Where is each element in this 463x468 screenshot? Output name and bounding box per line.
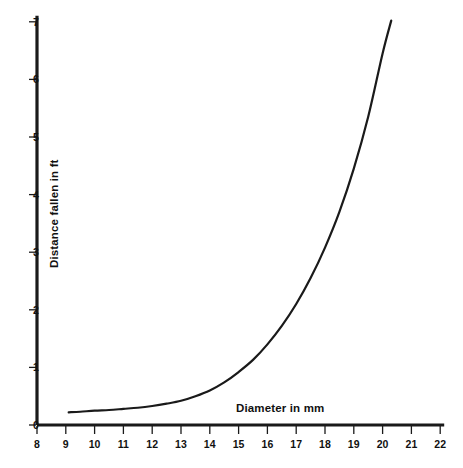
x-tick-label: 19 [348,439,360,450]
x-axis-ticks [37,426,440,434]
x-tick-label: 21 [405,439,417,450]
x-tick-label: 15 [233,439,245,450]
axis-lines [37,16,444,425]
x-tick-label: 8 [34,439,40,450]
x-tick-label: 14 [204,439,216,450]
x-tick-label: 12 [146,439,158,450]
y-tick-label: 3 [25,247,39,258]
x-tick-label: 17 [290,439,302,450]
data-series-line [69,21,392,413]
y-tick-label: 7 [25,17,39,28]
x-tick-label: 11 [118,439,129,450]
y-axis-title: Distance fallen in ft [49,159,61,268]
chart-figure: 8910111213141516171819202122 01234567 Di… [0,0,463,468]
x-tick-label: 16 [261,439,273,450]
x-tick-label: 18 [319,439,331,450]
y-tick-label: 2 [25,305,39,316]
y-tick-label: 5 [25,132,39,143]
x-tick-label: 22 [434,439,446,450]
x-tick-label: 9 [63,439,69,450]
x-axis-title: Diameter in mm [236,403,324,415]
x-tick-label: 20 [377,439,389,450]
y-tick-label: 4 [25,189,39,200]
y-tick-label: 1 [25,362,39,373]
y-tick-label: 6 [25,74,39,85]
plot-area [0,0,463,468]
y-tick-label: 0 [25,420,39,431]
x-tick-label: 10 [89,439,101,450]
x-tick-label: 13 [175,439,187,450]
